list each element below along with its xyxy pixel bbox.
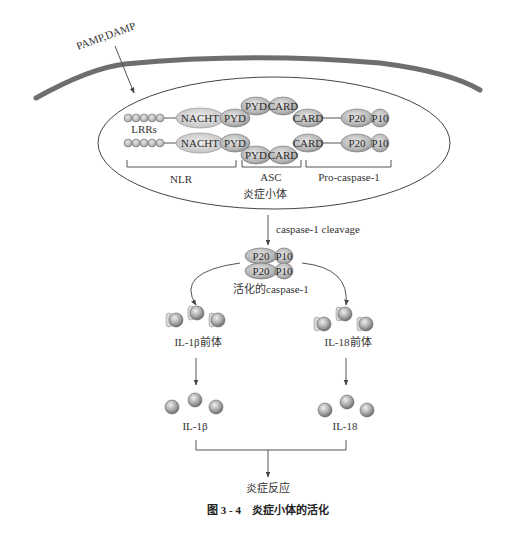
svg-text:P20: P20: [252, 250, 270, 262]
pro-caspase-row-1: CARD P20 P10: [293, 109, 389, 127]
nlr-label: NLR: [170, 173, 193, 185]
pro-caspase-label: Pro-caspase-1: [318, 171, 380, 183]
active-caspase-complex: P20 P10 P20 P10: [245, 248, 293, 279]
il18-label: IL-18: [332, 420, 358, 432]
il18-precursor-label: IL-18前体: [324, 335, 371, 348]
svg-text:P10: P10: [275, 250, 293, 262]
lrrs-label: LRRs: [131, 123, 157, 135]
svg-text:P20: P20: [252, 265, 270, 277]
svg-text:P10: P10: [371, 137, 389, 149]
cell-membrane: [36, 58, 480, 98]
svg-text:P10: P10: [371, 112, 389, 124]
nlr-row-2: NACHT PYD: [124, 133, 250, 153]
active-caspase-label: 活化的caspase-1: [233, 282, 309, 295]
pamp-arrow: [115, 46, 134, 93]
svg-text:PYD: PYD: [224, 137, 246, 149]
convergence-bracket: [196, 440, 346, 450]
nlr-bracket: [127, 160, 236, 167]
svg-text:NACHT: NACHT: [181, 112, 219, 124]
svg-text:CARD: CARD: [293, 137, 324, 149]
svg-text:P20: P20: [348, 137, 366, 149]
svg-text:PYD: PYD: [245, 100, 267, 112]
asc-top: PYD CARD: [241, 97, 298, 115]
lrr-beads-icon: [124, 139, 164, 147]
svg-text:NACHT: NACHT: [181, 137, 219, 149]
cleavage-label: caspase-1 cleavage: [276, 223, 360, 235]
pro-caspase-row-2: CARD P20 P10: [293, 134, 389, 152]
inflammation-label: 炎症反应: [246, 481, 290, 494]
il1b-mature-icon: [165, 393, 223, 414]
pamp-damp-label: PAMP,DAMP: [75, 19, 138, 52]
inflammasome-activation-diagram: PAMP,DAMP NACHT PYD LRRs PYD CARD CARD P…: [0, 0, 514, 538]
il18-mature-icon: [318, 395, 374, 417]
il1b-precursor-label: IL-1β前体: [174, 335, 221, 348]
svg-text:CARD: CARD: [268, 100, 299, 112]
pro-caspase-bracket: [306, 160, 391, 167]
svg-text:P10: P10: [275, 265, 293, 277]
svg-text:CARD: CARD: [293, 112, 324, 124]
figure-caption: 图 3 - 4 炎症小体的活化: [207, 503, 329, 516]
il1b-label: IL-1β: [182, 420, 208, 432]
asc-label: ASC: [260, 171, 281, 183]
il1b-precursor-icon: [166, 306, 225, 327]
asc-bottom: PYD CARD: [241, 146, 298, 164]
svg-text:CARD: CARD: [268, 149, 299, 161]
svg-text:P20: P20: [348, 112, 366, 124]
il18-precursor-icon: [314, 307, 373, 331]
lrr-beads-icon: [124, 114, 164, 122]
svg-text:PYD: PYD: [245, 149, 267, 161]
inflammasome-label: 炎症小体: [243, 187, 287, 200]
svg-text:PYD: PYD: [224, 112, 246, 124]
